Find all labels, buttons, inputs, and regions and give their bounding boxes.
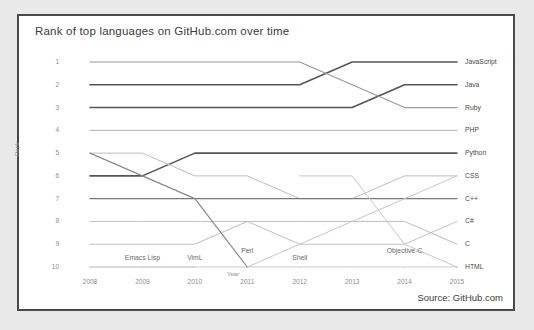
y-axis-tick: 1 (43, 58, 59, 65)
x-axis-tick: 2015 (437, 278, 477, 285)
series-line (90, 85, 457, 108)
series-label-css: CSS (465, 172, 479, 179)
x-axis-tick: 2013 (332, 278, 372, 285)
series-line (90, 62, 457, 85)
y-axis-tick: 10 (43, 263, 59, 270)
x-axis-tick-mark: · (246, 264, 248, 270)
inline-label-objective-c: Objective-C (375, 247, 435, 254)
inline-label-shell: Shell (270, 254, 330, 261)
y-axis-tick: 6 (43, 172, 59, 179)
inline-label-viml: VimL (165, 254, 225, 261)
y-axis-tick: 7 (43, 195, 59, 202)
series-label-python: Python (465, 149, 486, 156)
y-axis-tick: 9 (43, 240, 59, 247)
rank-line-chart (19, 16, 517, 313)
series-label-c: C (465, 240, 470, 247)
series-line (90, 153, 457, 176)
y-axis-label: Rank (14, 142, 20, 156)
y-axis-tick: 8 (43, 217, 59, 224)
x-axis-tick: 2010 (175, 278, 215, 285)
x-axis-tick-mark: · (351, 264, 353, 270)
x-axis-tick-mark: · (403, 264, 405, 270)
x-axis-tick-mark: · (298, 264, 300, 270)
series-label-javascript: JavaScript (465, 58, 497, 65)
inline-label-emacs-lisp: Emacs Lisp (112, 254, 172, 261)
inline-label-perl: Perl (217, 247, 277, 254)
series-line (90, 153, 457, 199)
x-axis-tick-mark: · (89, 264, 91, 270)
x-axis-tick: 2014 (385, 278, 425, 285)
x-axis-tick-mark: · (141, 264, 143, 270)
series-label-ruby: Ruby (465, 104, 481, 111)
x-axis-tick-mark: · (456, 264, 458, 270)
series-label-c-: C++ (465, 195, 478, 202)
x-axis-tick: 2009 (122, 278, 162, 285)
series-label-php: PHP (465, 126, 479, 133)
y-axis-tick: 4 (43, 126, 59, 133)
x-axis-tick: 2011 (227, 278, 267, 285)
chart-card: Rank of top languages on GitHub.com over… (17, 14, 515, 311)
source-note: Source: GitHub.com (417, 292, 503, 303)
y-axis-tick: 5 (43, 149, 59, 156)
x-axis-label: Year (227, 271, 239, 277)
series-label-java: Java (465, 81, 479, 88)
y-axis-tick: 2 (43, 81, 59, 88)
y-axis-tick: 3 (43, 104, 59, 111)
x-axis-tick-mark: · (193, 264, 195, 270)
series-label-c-: C# (465, 217, 474, 224)
series-label-html: HTML (465, 263, 484, 270)
x-axis-tick: 2012 (280, 278, 320, 285)
x-axis-tick: 2008 (70, 278, 110, 285)
chart-plot-area: 123456789102008·2009·2010·2011·2012·2013… (19, 16, 517, 313)
